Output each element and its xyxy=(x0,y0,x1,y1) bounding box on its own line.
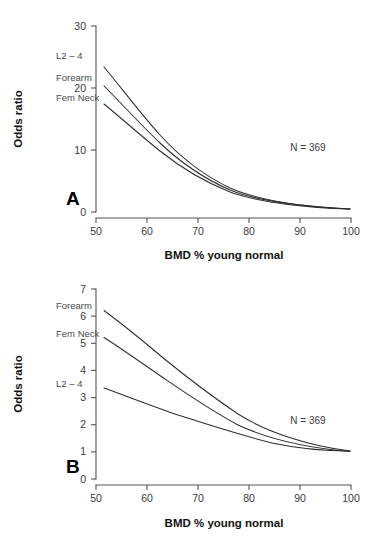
panel-b-y-axis-title: Odds ratio xyxy=(12,355,24,413)
panel-b: 7 6 5 4 3 2 1 0 50 60 70 80 90 100 xyxy=(0,265,375,546)
panel-a-y-ticklabel-10: 10 xyxy=(74,144,86,156)
panel-a-x-ticklabel-50: 50 xyxy=(90,225,102,237)
panel-a-x-ticklabel-80: 80 xyxy=(243,225,255,237)
panel-a-curve-l2-4 xyxy=(104,67,350,209)
panel-b-x-axis-title: BMD % young normal xyxy=(165,517,284,529)
panel-a-y-axis-title: Odds ratio xyxy=(12,90,24,148)
panel-b-x-ticklabel-100: 100 xyxy=(342,492,360,504)
panel-b-y-ticklabel-4: 4 xyxy=(80,364,86,376)
panel-a-sample-size-annotation: N = 369 xyxy=(290,142,326,153)
panel-a-letter: A xyxy=(66,188,80,209)
panel-b-label-forearm: Forearm xyxy=(56,300,92,311)
panel-a-y-ticklabel-0: 0 xyxy=(80,206,86,218)
panel-a-label-forearm: Forearm xyxy=(56,72,92,83)
panel-b-plot: 7 6 5 4 3 2 1 0 50 60 70 80 90 100 xyxy=(0,265,375,546)
panel-a-label-l2-4: L2 – 4 xyxy=(56,50,82,61)
panel-b-y-ticklabel-7: 7 xyxy=(80,283,86,295)
panel-b-y-ticklabel-3: 3 xyxy=(80,391,86,403)
panel-b-y-ticklabel-2: 2 xyxy=(80,418,86,430)
panel-b-label-l2-4: L2 – 4 xyxy=(56,378,82,389)
panel-a-x-ticklabel-70: 70 xyxy=(192,225,204,237)
panel-a-x-ticklabel-60: 60 xyxy=(141,225,153,237)
panel-a-plot: 30 20 10 0 50 60 70 80 90 100 L2 – 4 Fo xyxy=(0,0,375,273)
panel-b-curve-fem-neck xyxy=(104,338,350,452)
figure-two-panel-odds-ratio: 30 20 10 0 50 60 70 80 90 100 L2 – 4 Fo xyxy=(0,0,375,546)
panel-a-curve-fem-neck xyxy=(104,104,350,209)
panel-b-y-ticklabel-1: 1 xyxy=(80,445,86,457)
panel-a-x-ticklabel-100: 100 xyxy=(342,225,360,237)
panel-a-x-axis-title: BMD % young normal xyxy=(165,249,284,261)
panel-b-letter: B xyxy=(66,456,80,477)
panel-a-label-fem-neck: Fem Neck xyxy=(56,92,100,103)
panel-b-x-ticklabel-90: 90 xyxy=(294,492,306,504)
panel-a-y-ticklabel-30: 30 xyxy=(74,20,86,32)
panel-b-y-ticklabel-6: 6 xyxy=(80,310,86,322)
panel-b-x-ticklabel-70: 70 xyxy=(192,492,204,504)
panel-b-label-fem-neck: Fem Neck xyxy=(56,328,100,339)
panel-b-x-ticklabel-60: 60 xyxy=(141,492,153,504)
panel-a-x-ticklabel-90: 90 xyxy=(294,225,306,237)
panel-b-y-ticklabel-0: 0 xyxy=(80,473,86,485)
panel-b-sample-size-annotation: N = 369 xyxy=(290,415,326,426)
panel-b-x-ticklabel-80: 80 xyxy=(243,492,255,504)
panel-b-x-ticklabel-50: 50 xyxy=(90,492,102,504)
panel-a: 30 20 10 0 50 60 70 80 90 100 L2 – 4 Fo xyxy=(0,0,375,273)
